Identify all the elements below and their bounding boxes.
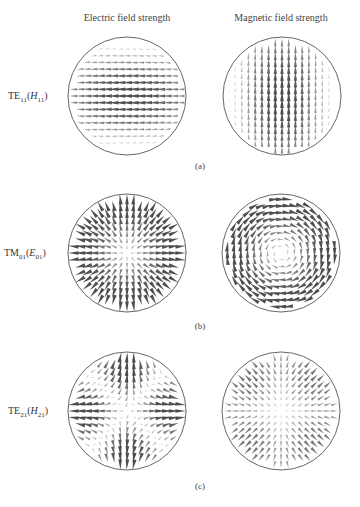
te21-magnetic-field-plot <box>221 351 341 471</box>
alt-subscript: 21 <box>38 411 45 419</box>
mode-prefix: TE <box>8 405 20 416</box>
alt-subscript: 01 <box>35 253 42 261</box>
field-arrows <box>70 48 185 145</box>
panel-label-b: (b) <box>180 321 220 331</box>
magnetic-field-column-title: Magnetic field strength <box>206 12 356 23</box>
panel-label-a: (a) <box>180 161 220 171</box>
mode-subscript: 01 <box>19 253 26 261</box>
waveguide-boundary-circle <box>222 194 340 312</box>
electric-field-column-title: Electric field strength <box>52 12 202 23</box>
alt-prefix: H <box>30 90 37 101</box>
te11-magnetic-field-plot <box>222 36 342 156</box>
panel-label-c: (c) <box>180 481 220 491</box>
mode-prefix: TE <box>8 90 20 101</box>
field-arrows <box>225 197 337 309</box>
mode-label-tm01: TM01(E01) <box>4 247 46 261</box>
te21-electric-field-plot <box>67 351 187 471</box>
te11-electric-field-plot <box>67 36 187 156</box>
mode-subscript: 11 <box>20 96 27 104</box>
mode-label-te11: TE11(H11) <box>8 90 48 104</box>
field-arrows <box>68 352 186 470</box>
field-arrows <box>224 354 338 468</box>
tm01-magnetic-field-plot <box>221 193 341 313</box>
tm01-electric-field-plot <box>67 193 187 313</box>
field-arrows <box>234 39 330 154</box>
field-arrows <box>68 194 186 312</box>
alt-subscript: 11 <box>38 96 45 104</box>
alt-prefix: H <box>31 405 38 416</box>
mode-subscript: 21 <box>20 411 27 419</box>
mode-prefix: TM <box>4 247 19 258</box>
mode-label-te21: TE21(H21) <box>8 405 48 419</box>
